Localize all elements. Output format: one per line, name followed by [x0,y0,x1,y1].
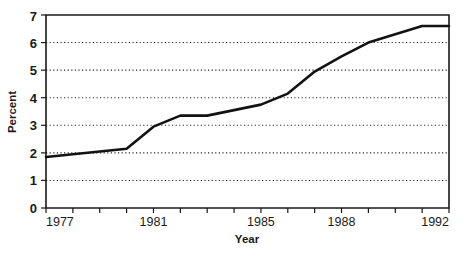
frame-border [46,15,449,208]
x-tick-label-1992: 1992 [421,215,449,229]
y-tick-label-1: 1 [30,173,37,188]
y-tick-label-3: 3 [30,118,37,133]
gridlines [46,43,449,181]
chart-canvas: 0 1 2 3 4 5 6 7 [0,0,474,255]
plot-frame [46,15,449,208]
y-tick-label-0: 0 [30,201,37,216]
x-tick-labels: 1977 1981 1985 1988 1992 [46,215,449,229]
x-tick-label-1985: 1985 [247,215,275,229]
y-tick-labels: 0 1 2 3 4 5 6 7 [30,9,38,217]
x-tick-label-1977: 1977 [46,215,74,229]
x-axis-title: Year [235,233,260,245]
line-chart: 0 1 2 3 4 5 6 7 [0,0,474,255]
series-line-percent [46,26,449,157]
y-tick-label-6: 6 [30,36,37,51]
data-series-percent [46,26,449,157]
y-axis-title: Percent [6,91,18,133]
y-tick-label-7: 7 [30,9,37,24]
y-tick-label-5: 5 [30,63,37,78]
x-tick-label-1981: 1981 [140,215,168,229]
x-tick-label-1988: 1988 [328,215,356,229]
y-tick-label-4: 4 [30,91,38,106]
y-tick-label-2: 2 [30,146,37,161]
